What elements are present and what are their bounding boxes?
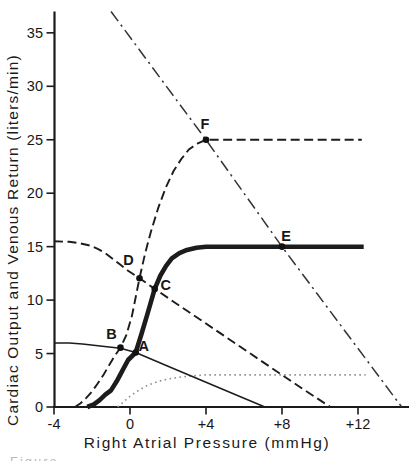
equilibrium-point-E (279, 243, 286, 250)
curve-dashed-cardiac-output-curve-plateau-25 (75, 140, 362, 407)
y-tick-label: 15 (27, 239, 43, 255)
x-tick-label: +12 (346, 416, 371, 432)
curve-dashed-venous-return-curve-plateau-15.5 (54, 241, 330, 407)
equilibrium-point-label-A: A (138, 338, 149, 354)
x-tick-label: -4 (48, 416, 61, 432)
equilibrium-point-label-B: B (106, 326, 116, 342)
curve-dash-dot-venous-return-line (111, 12, 402, 408)
cardiac-output-venous-return-figure: 05101520253035-40+4+8+12ABCDEF Right Atr… (0, 0, 411, 461)
y-tick-label: 10 (27, 292, 43, 308)
y-tick-label: 0 (35, 399, 43, 415)
cut-off-caption-fragment: Figure (10, 455, 210, 461)
equilibrium-point-B (117, 344, 124, 351)
curve-dotted-cardiac-output-curve-plateau-3 (118, 375, 366, 407)
equilibrium-point-label-C: C (160, 277, 171, 293)
y-tick-label: 35 (27, 25, 43, 41)
x-tick-label: +8 (274, 416, 291, 432)
equilibrium-point-D (136, 275, 143, 282)
chart-svg: 05101520253035-40+4+8+12ABCDEF (0, 0, 411, 461)
equilibrium-point-C (151, 286, 158, 293)
y-tick-label: 20 (27, 185, 43, 201)
y-tick-label: 30 (27, 78, 43, 94)
x-tick-label: 0 (126, 416, 134, 432)
equilibrium-point-label-F: F (201, 116, 210, 132)
equilibrium-point-F (203, 136, 210, 143)
y-axis-title: Cardiac Output and Venous Return (liters… (4, 54, 22, 426)
x-axis-title: Right Atrial Pressure (mmHg) (54, 434, 360, 452)
x-tick-label: +4 (198, 416, 215, 432)
equilibrium-point-label-E: E (281, 228, 291, 244)
y-tick-label: 5 (35, 346, 43, 362)
y-tick-label: 25 (27, 132, 43, 148)
equilibrium-point-label-D: D (123, 252, 133, 268)
